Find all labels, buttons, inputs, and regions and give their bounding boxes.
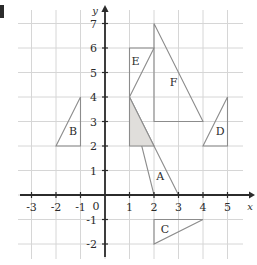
y-tick-label: 5 <box>90 67 97 80</box>
x-tick-label: 2 <box>151 201 158 214</box>
y-tick-label: -1 <box>86 214 97 227</box>
x-tick-label: 4 <box>200 201 207 214</box>
shape-label-f: F <box>170 76 178 89</box>
shape-label-b: B <box>69 125 77 138</box>
x-tick-label: -2 <box>51 201 62 214</box>
y-axis-label: y <box>91 5 98 16</box>
shape-label-c: C <box>161 223 169 236</box>
coordinate-plane-svg: -3-2-112345-2-112345670xy ABCDEF <box>0 0 257 265</box>
shape-label-e: E <box>132 55 140 68</box>
x-tick-label: 5 <box>224 201 231 214</box>
y-axis-arrowhead <box>101 5 108 12</box>
shape-label-d: D <box>216 125 225 138</box>
y-tick-label: 4 <box>90 91 97 104</box>
x-axis-label: x <box>247 201 253 212</box>
y-tick-label: 2 <box>90 140 97 153</box>
y-tick-label: 1 <box>90 165 97 178</box>
origin-label: 0 <box>93 200 100 213</box>
y-tick-label: -2 <box>86 238 97 251</box>
y-tick-label: 7 <box>90 18 97 31</box>
y-tick-label: 3 <box>90 116 97 129</box>
x-axis-arrowhead <box>249 191 255 198</box>
coordinate-grid-figure: -3-2-112345-2-112345670xy ABCDEF <box>0 0 257 265</box>
x-tick-label: 3 <box>175 201 182 214</box>
x-tick-label: 1 <box>126 201 133 214</box>
y-tick-label: 6 <box>90 42 97 55</box>
x-tick-label: -1 <box>75 201 86 214</box>
x-tick-label: -3 <box>26 201 37 214</box>
shape-label-a: A <box>155 170 165 183</box>
